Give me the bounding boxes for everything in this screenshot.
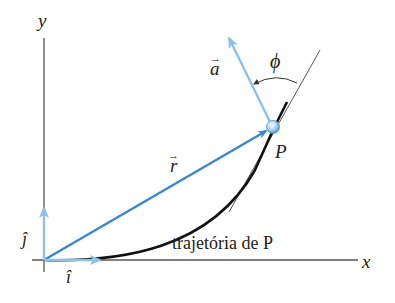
unit-vector-i-label: î xyxy=(66,267,72,287)
x-axis-label: x xyxy=(361,251,371,272)
phi-angle-arc xyxy=(254,78,297,84)
y-axis-label: y xyxy=(36,10,47,31)
trajectory-label: trajetória de P xyxy=(172,233,273,253)
phi-angle-label: ϕ xyxy=(270,50,280,73)
vector-a-label: a xyxy=(210,58,220,79)
unit-vector-j-label: ĵ xyxy=(20,229,28,249)
acceleration-vector-a xyxy=(229,38,272,126)
point-p-label: P xyxy=(274,141,287,162)
vector-r-label: r xyxy=(170,155,178,176)
point-p-marker xyxy=(267,121,280,134)
kinematics-diagram: y x ĵ î → r → a ϕ P trajetória de P xyxy=(0,0,395,303)
